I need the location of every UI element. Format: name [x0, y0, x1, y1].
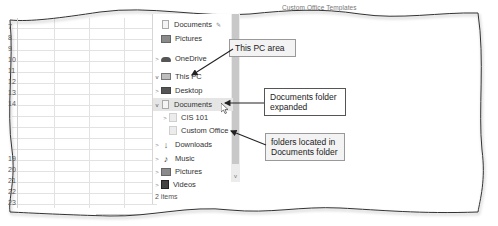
- mouse-pointer-icon: [221, 103, 229, 114]
- chevron-right-icon[interactable]: >: [153, 182, 161, 188]
- callout-text: Documents folder: [270, 92, 340, 102]
- nav-item-desktop[interactable]: > Desktop: [153, 84, 233, 97]
- music-icon: ♪: [161, 155, 171, 163]
- callout-documents-expanded: Documents folder expanded: [264, 88, 346, 116]
- row-number: 21: [8, 177, 16, 185]
- nav-item-quick-pictures[interactable]: Pictures: [153, 32, 233, 45]
- row-number: 11: [8, 67, 15, 75]
- row-headers: 7 8 9 10 11 12 13 14 19 20 21 22 23: [8, 18, 20, 208]
- nav-item-videos[interactable]: > Videos: [153, 178, 233, 191]
- row-number: 23: [8, 199, 16, 207]
- video-icon: [161, 180, 169, 189]
- column-divider: [54, 18, 55, 208]
- pin-icon: ✎: [216, 21, 221, 28]
- callout-text: folders located in: [271, 137, 339, 147]
- spreadsheet-grid: [12, 18, 157, 208]
- callout-text: expanded: [270, 102, 340, 112]
- status-bar-item-count: 2 items: [155, 193, 178, 200]
- row-number: 14: [8, 100, 16, 108]
- chevron-down-icon[interactable]: v: [153, 74, 161, 80]
- nav-item-onedrive[interactable]: > OneDrive: [153, 52, 233, 65]
- breadcrumb-fragment: Custom Office Templates: [282, 4, 357, 11]
- callout-text: This PC area: [235, 43, 285, 53]
- nav-item-custom-office[interactable]: Custom Office: [153, 124, 233, 137]
- column-divider: [124, 18, 125, 208]
- callout-this-pc-area: This PC area: [229, 39, 296, 57]
- chevron-down-icon[interactable]: v: [153, 102, 161, 108]
- row-number: 20: [8, 166, 16, 174]
- nav-item-music[interactable]: > ♪ Music: [153, 152, 233, 165]
- callout-text: Documents folder: [271, 147, 339, 157]
- nav-item-downloads[interactable]: > ↓ Downloads: [153, 138, 233, 151]
- nav-item-label: Pictures: [175, 167, 202, 176]
- nav-item-label: Desktop: [175, 86, 203, 95]
- nav-item-label: Documents: [174, 100, 212, 109]
- figure-stage: 7 8 9 10 11 12 13 14 19 20 21 22 23 + Cu…: [0, 0, 498, 226]
- cloud-icon: [161, 57, 171, 62]
- row-number: 12: [8, 78, 16, 86]
- nav-item-label: CIS 101: [181, 113, 208, 122]
- sheet-tab-area: [96, 214, 186, 224]
- chevron-right-icon[interactable]: >: [153, 56, 161, 62]
- nav-item-label: Documents: [174, 20, 212, 29]
- chevron-right-icon[interactable]: >: [153, 156, 161, 162]
- chevron-right-icon[interactable]: >: [161, 115, 169, 121]
- nav-item-quick-documents[interactable]: Documents ✎: [153, 18, 233, 31]
- desktop-icon: [161, 87, 171, 94]
- computer-icon: [161, 73, 171, 80]
- folder-icon: [169, 126, 177, 135]
- scroll-thumb[interactable]: [232, 14, 239, 164]
- add-sheet-button[interactable]: +: [117, 215, 126, 224]
- row-number: 10: [8, 56, 16, 64]
- document-icon: [162, 100, 169, 109]
- column-divider: [89, 18, 90, 208]
- row-number: 8: [8, 34, 12, 42]
- nav-item-label: This PC: [175, 72, 202, 81]
- nav-item-label: Downloads: [175, 140, 212, 149]
- nav-item-pictures[interactable]: > Pictures: [153, 165, 233, 178]
- callout-folders-located: folders located in Documents folder: [265, 133, 345, 161]
- nav-item-label: OneDrive: [175, 54, 207, 63]
- nav-item-label: Videos: [173, 180, 196, 189]
- download-icon: ↓: [161, 141, 171, 149]
- row-number: 7: [8, 23, 12, 31]
- chevron-right-icon[interactable]: >: [153, 88, 161, 94]
- folder-icon: [169, 113, 177, 122]
- pictures-icon: [161, 35, 171, 43]
- row-number: 13: [8, 89, 16, 97]
- row-number: 22: [8, 188, 16, 196]
- row-number: 19: [8, 155, 16, 163]
- nav-item-label: Music: [175, 154, 195, 163]
- chevron-right-icon[interactable]: >: [153, 142, 161, 148]
- pictures-icon: [161, 168, 171, 176]
- document-icon: [162, 20, 169, 29]
- nav-item-this-pc[interactable]: v This PC: [153, 70, 233, 83]
- nav-item-label: Pictures: [175, 34, 202, 43]
- nav-item-label: Custom Office: [181, 126, 228, 135]
- row-number: 9: [8, 45, 12, 53]
- chevron-right-icon[interactable]: >: [153, 169, 161, 175]
